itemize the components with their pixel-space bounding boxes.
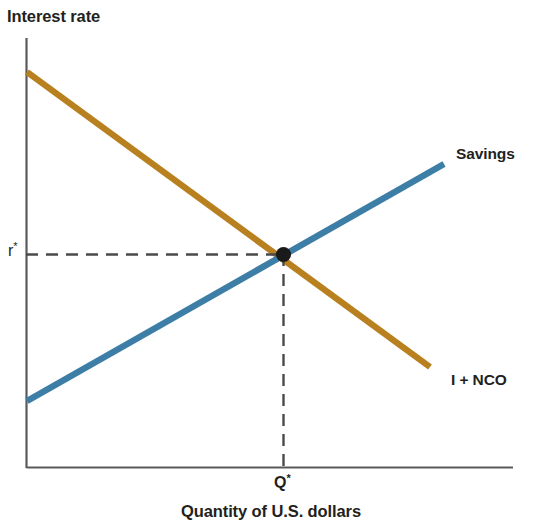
savings-curve xyxy=(27,164,444,401)
q-star-glyph: * xyxy=(286,472,290,484)
chart-canvas xyxy=(0,0,542,530)
x-axis-tick-label-q-star: Q* xyxy=(274,475,291,491)
i-plus-nco-curve xyxy=(27,72,430,367)
q-star-base: Q xyxy=(274,474,286,491)
y-axis-tick-label-r-star: r* xyxy=(8,243,18,259)
equilibrium-point-marker xyxy=(276,247,291,262)
series-label-i-plus-nco: I + NCO xyxy=(451,372,507,388)
y-axis-title: Interest rate xyxy=(7,8,100,25)
x-axis-title: Quantity of U.S. dollars xyxy=(0,503,542,520)
series-label-savings: Savings xyxy=(456,146,515,162)
r-star-glyph: * xyxy=(13,240,17,252)
interest-rate-loanable-funds-chart: Interest rate Quantity of U.S. dollars S… xyxy=(0,0,542,530)
